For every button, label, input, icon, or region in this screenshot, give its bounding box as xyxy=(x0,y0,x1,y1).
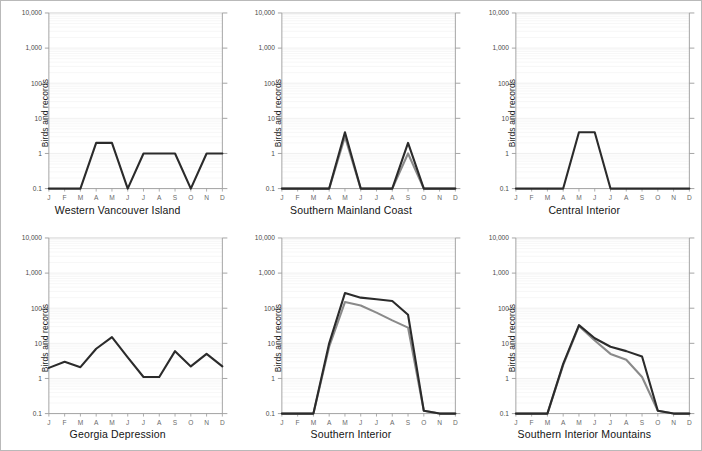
svg-text:J: J xyxy=(142,194,145,201)
chart-svg-5: 10,0001,0001001010.1JFMAMJJASOND xyxy=(468,226,701,451)
svg-text:10,000: 10,000 xyxy=(488,9,508,16)
svg-text:O: O xyxy=(655,194,660,201)
svg-text:A: A xyxy=(327,418,332,425)
plot-area: 10,0001,0001001010.1JFMAMJJASOND xyxy=(1,1,234,226)
y-axis-label: Birds and records xyxy=(273,79,283,147)
svg-text:N: N xyxy=(438,418,443,425)
svg-text:10,000: 10,000 xyxy=(488,234,508,241)
svg-text:M: M xyxy=(343,194,348,201)
svg-text:A: A xyxy=(94,418,99,425)
svg-text:S: S xyxy=(640,418,645,425)
svg-text:M: M xyxy=(576,418,581,425)
svg-text:M: M xyxy=(109,418,114,425)
chart-svg-4: 10,0001,0001001010.1JFMAMJJASOND xyxy=(234,226,467,451)
plot-area: 10,0001,0001001010.1JFMAMJJASOND xyxy=(468,226,701,451)
chart-svg-0: 10,0001,0001001010.1JFMAMJJASOND xyxy=(1,1,234,226)
svg-text:10,000: 10,000 xyxy=(255,234,275,241)
panel-title: Central Interior xyxy=(468,204,701,216)
svg-text:J: J xyxy=(281,194,284,201)
svg-text:A: A xyxy=(390,418,395,425)
y-axis-label: Birds and records xyxy=(40,304,50,372)
y-axis-label: Birds and records xyxy=(40,79,50,147)
svg-text:A: A xyxy=(327,194,332,201)
svg-text:J: J xyxy=(126,194,129,201)
svg-text:D: D xyxy=(687,418,692,425)
plot-area: 10,0001,0001001010.1JFMAMJJASOND xyxy=(234,1,467,226)
svg-text:M: M xyxy=(544,418,549,425)
svg-text:0.1: 0.1 xyxy=(266,185,275,192)
panel-title: Southern Mainland Coast xyxy=(234,204,467,216)
panel-title: Southern Interior Mountains xyxy=(468,428,701,440)
svg-text:10,000: 10,000 xyxy=(255,9,275,16)
panel-georgia-depression: 10,0001,0001001010.1JFMAMJJASOND Birds a… xyxy=(1,226,234,451)
svg-text:1: 1 xyxy=(272,150,276,157)
svg-text:J: J xyxy=(375,418,378,425)
svg-text:J: J xyxy=(142,418,145,425)
svg-text:1: 1 xyxy=(505,374,509,381)
panel-southern-interior: 10,0001,0001001010.1JFMAMJJASOND Birds a… xyxy=(234,226,467,451)
svg-text:J: J xyxy=(593,194,596,201)
svg-text:J: J xyxy=(514,418,517,425)
chart-panels: 10,0001,0001001010.1JFMAMJJASOND Birds a… xyxy=(1,1,701,450)
svg-text:A: A xyxy=(390,194,395,201)
svg-text:1,000: 1,000 xyxy=(259,44,276,51)
svg-text:F: F xyxy=(296,194,300,201)
svg-text:F: F xyxy=(529,194,533,201)
svg-text:A: A xyxy=(561,418,566,425)
svg-text:1: 1 xyxy=(272,374,276,381)
svg-text:J: J xyxy=(47,194,50,201)
panel-title: Southern Interior xyxy=(234,428,467,440)
svg-text:N: N xyxy=(438,194,443,201)
svg-text:10,000: 10,000 xyxy=(22,234,42,241)
chart-svg-3: 10,0001,0001001010.1JFMAMJJASOND xyxy=(1,226,234,451)
svg-text:O: O xyxy=(655,418,660,425)
figure-panel-grid: 10,0001,0001001010.1JFMAMJJASOND Birds a… xyxy=(0,0,702,451)
svg-text:M: M xyxy=(78,194,83,201)
svg-text:O: O xyxy=(422,418,427,425)
plot-area: 10,0001,0001001010.1JFMAMJJASOND xyxy=(234,226,467,451)
svg-text:1,000: 1,000 xyxy=(259,269,276,276)
chart-svg-1: 10,0001,0001001010.1JFMAMJJASOND xyxy=(234,1,467,226)
svg-text:1,000: 1,000 xyxy=(492,44,509,51)
svg-text:M: M xyxy=(544,194,549,201)
svg-text:F: F xyxy=(529,418,533,425)
svg-text:0.1: 0.1 xyxy=(499,185,508,192)
svg-text:D: D xyxy=(453,418,458,425)
svg-text:S: S xyxy=(173,194,178,201)
svg-text:N: N xyxy=(671,194,676,201)
svg-text:F: F xyxy=(63,418,67,425)
svg-text:M: M xyxy=(576,194,581,201)
svg-text:D: D xyxy=(220,418,225,425)
svg-text:0.1: 0.1 xyxy=(33,409,42,416)
svg-text:1: 1 xyxy=(505,150,509,157)
svg-text:J: J xyxy=(609,194,612,201)
svg-text:J: J xyxy=(359,418,362,425)
svg-text:O: O xyxy=(188,194,193,201)
svg-text:J: J xyxy=(514,194,517,201)
svg-text:1,000: 1,000 xyxy=(25,269,42,276)
svg-text:M: M xyxy=(78,418,83,425)
panel-southern-mainland-coast: 10,0001,0001001010.1JFMAMJJASOND Birds a… xyxy=(234,1,467,226)
svg-text:F: F xyxy=(63,194,67,201)
svg-text:1: 1 xyxy=(38,150,42,157)
svg-text:A: A xyxy=(624,194,629,201)
svg-text:D: D xyxy=(687,194,692,201)
panel-title: Georgia Depression xyxy=(1,428,234,440)
svg-text:10,000: 10,000 xyxy=(22,9,42,16)
y-axis-label: Birds and records xyxy=(507,79,517,147)
svg-text:S: S xyxy=(173,418,178,425)
plot-area: 10,0001,0001001010.1JFMAMJJASOND xyxy=(468,1,701,226)
svg-text:A: A xyxy=(94,194,99,201)
svg-text:0.1: 0.1 xyxy=(33,185,42,192)
chart-svg-2: 10,0001,0001001010.1JFMAMJJASOND xyxy=(468,1,701,226)
plot-area: 10,0001,0001001010.1JFMAMJJASOND xyxy=(1,226,234,451)
svg-text:A: A xyxy=(561,194,566,201)
svg-text:S: S xyxy=(640,194,645,201)
svg-text:J: J xyxy=(359,194,362,201)
svg-text:0.1: 0.1 xyxy=(266,409,275,416)
svg-text:O: O xyxy=(188,418,193,425)
svg-text:J: J xyxy=(281,418,284,425)
panel-southern-interior-mountains: 10,0001,0001001010.1JFMAMJJASOND Birds a… xyxy=(468,226,701,451)
svg-text:J: J xyxy=(126,418,129,425)
svg-text:F: F xyxy=(296,418,300,425)
